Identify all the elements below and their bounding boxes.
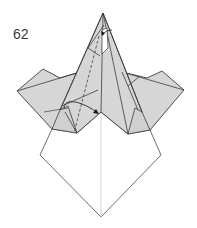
central-point (44, 13, 150, 134)
origami-diagram (0, 0, 197, 228)
